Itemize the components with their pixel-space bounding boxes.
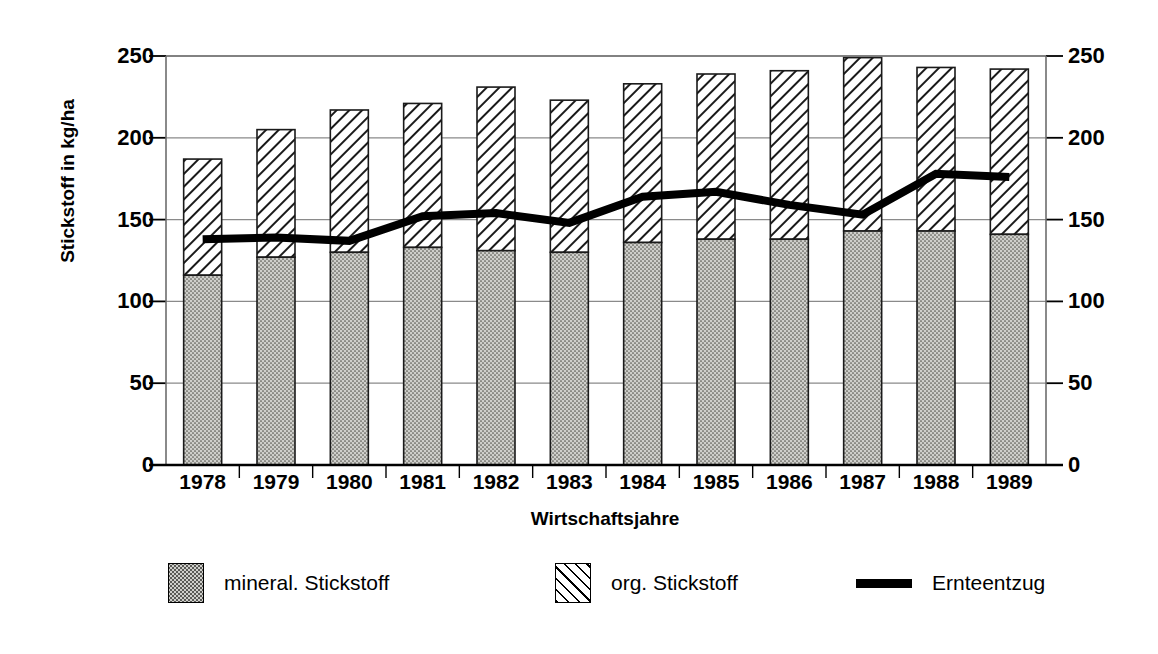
legend-swatch-line-icon bbox=[856, 579, 912, 588]
chart-figure: Stickstoff in kg/ha Wirtschaftsjahre min… bbox=[0, 0, 1158, 654]
x-axis-tick-1980: 1980 bbox=[309, 470, 389, 494]
y-axis-left-tick: 150 bbox=[117, 209, 154, 231]
gridlines bbox=[166, 56, 1046, 383]
y-axis-right-tick: 200 bbox=[1068, 127, 1105, 149]
legend-swatch-mineral-icon bbox=[168, 563, 204, 603]
plot-area bbox=[0, 0, 1158, 654]
bar-group bbox=[184, 58, 1029, 465]
x-axis-tick-1988: 1988 bbox=[896, 470, 976, 494]
y-axis-left-tick: 50 bbox=[130, 372, 154, 394]
y-axis-right-tick: 0 bbox=[1068, 454, 1080, 476]
y-axis-right-tick: 50 bbox=[1068, 372, 1092, 394]
legend-label-ernteentzug: Ernteentzug bbox=[932, 571, 1045, 595]
x-axis-tick-1983: 1983 bbox=[529, 470, 609, 494]
x-axis-tick-1981: 1981 bbox=[383, 470, 463, 494]
x-axis-tick-1982: 1982 bbox=[456, 470, 536, 494]
y-axis-left-tick: 0 bbox=[142, 454, 154, 476]
legend-label-mineral: mineral. Stickstoff bbox=[224, 571, 389, 595]
legend-item-mineral: mineral. Stickstoff bbox=[168, 560, 389, 606]
legend-item-org: org. Stickstoff bbox=[555, 560, 738, 606]
legend-item-ernteentzug: Ernteentzug bbox=[856, 560, 1045, 606]
x-axis-tick-1987: 1987 bbox=[823, 470, 903, 494]
ernteentzug-line bbox=[203, 174, 1010, 241]
y-axis-right-tick: 250 bbox=[1068, 45, 1105, 67]
x-axis-tick-1984: 1984 bbox=[603, 470, 683, 494]
x-axis-tick-1985: 1985 bbox=[676, 470, 756, 494]
chart-legend: mineral. Stickstoff org. Stickstoff Ernt… bbox=[0, 560, 1158, 606]
x-axis-tick-1986: 1986 bbox=[749, 470, 829, 494]
y-axis-left-tick: 250 bbox=[117, 45, 154, 67]
y-axis-right-tick: 100 bbox=[1068, 290, 1105, 312]
y-axis-left-tick: 200 bbox=[117, 127, 154, 149]
x-axis-tick-1979: 1979 bbox=[236, 470, 316, 494]
x-axis-tick-1989: 1989 bbox=[969, 470, 1049, 494]
legend-label-org: org. Stickstoff bbox=[611, 571, 738, 595]
legend-swatch-org-icon bbox=[555, 563, 591, 603]
y-axis-left-tick: 100 bbox=[117, 290, 154, 312]
x-axis-tick-1978: 1978 bbox=[163, 470, 243, 494]
y-axis-right-tick: 150 bbox=[1068, 209, 1105, 231]
